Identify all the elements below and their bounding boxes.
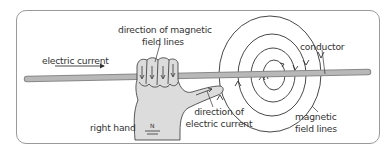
label-direction-current-line1: direction of [180,106,258,117]
label-magnetic-line1: magnetic [295,111,337,122]
label-direction-field-line1: direction of magnetic [118,24,208,35]
label-direction-current-line2: electric current [180,118,258,129]
conductor-rod [27,72,368,79]
label-magnetic-line2: field lines [295,123,337,134]
label-right-hand: right hand [90,122,136,133]
label-electric-current: electric current [42,55,109,66]
label-direction-field-line2: field lines [118,36,208,47]
wrist-mark-top: N [150,120,154,131]
label-conductor: conductor [300,41,344,52]
